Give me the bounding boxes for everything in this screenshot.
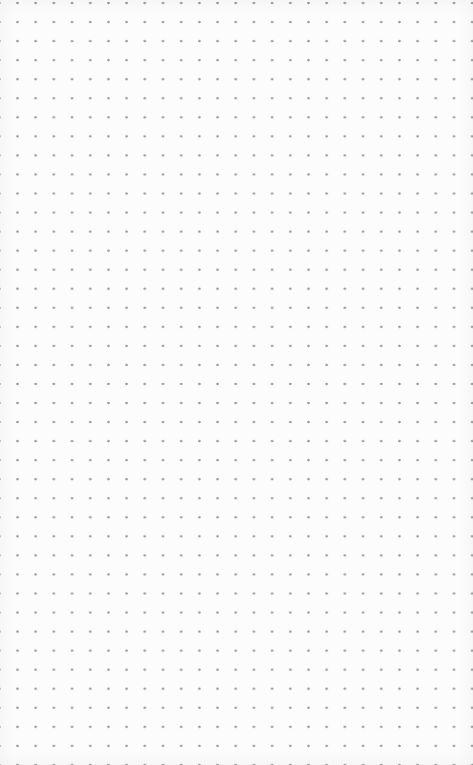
dot-grid-paper	[0, 0, 473, 765]
